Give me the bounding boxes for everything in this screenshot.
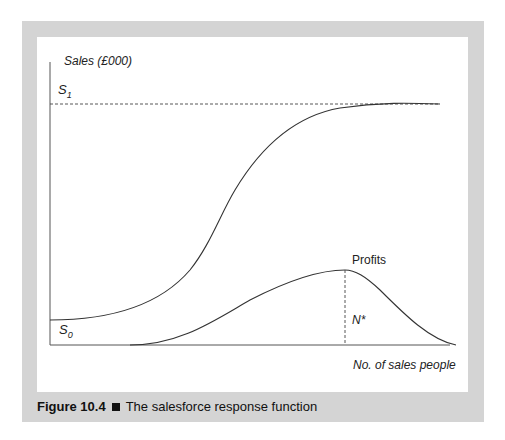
s1-label: S1 <box>58 82 72 100</box>
figure-number: Figure 10.4 <box>37 399 106 414</box>
profits-label: Profits <box>352 253 386 267</box>
figure-title: The salesforce response function <box>126 399 318 414</box>
y-axis-label: Sales (£000) <box>64 54 132 68</box>
square-bullet-icon <box>112 403 120 411</box>
s0-label: S0 <box>59 322 73 340</box>
s1-label-sub: 1 <box>67 90 72 100</box>
s0-label-sub: 0 <box>68 330 73 340</box>
s1-label-base: S <box>58 82 67 97</box>
figure-caption: Figure 10.4The salesforce response funct… <box>37 399 317 414</box>
x-axis-label: No. of sales people <box>353 358 456 372</box>
s0-label-base: S <box>59 322 68 337</box>
n-star-label: N* <box>352 313 365 327</box>
sales-response-curve <box>50 103 440 320</box>
